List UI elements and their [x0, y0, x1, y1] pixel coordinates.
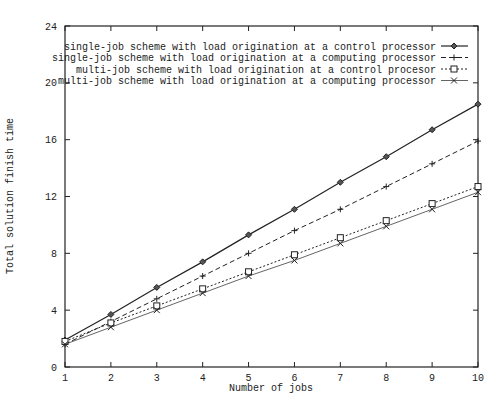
- cross-marker-icon: [337, 240, 343, 246]
- y-tick-label: 20: [45, 78, 57, 89]
- diamond-marker-icon: [337, 179, 343, 185]
- legend-label: multi-job scheme with load origination a…: [76, 65, 436, 76]
- cross-marker-icon: [429, 206, 435, 212]
- legend: single-job scheme with load origination …: [52, 42, 468, 88]
- diamond-marker-icon: [108, 311, 114, 317]
- plus-marker-icon: [383, 184, 389, 190]
- series-line: [65, 141, 478, 344]
- square-marker-icon: [475, 184, 481, 190]
- y-tick-label: 16: [45, 135, 57, 146]
- series-3: [62, 184, 481, 345]
- x-tick-label: 10: [472, 373, 484, 384]
- x-tick-label: 3: [154, 373, 160, 384]
- plus-marker-icon: [200, 273, 206, 279]
- diamond-marker-icon: [429, 127, 435, 133]
- series-line: [65, 187, 478, 342]
- x-tick-label: 7: [337, 373, 343, 384]
- plus-marker-icon: [475, 138, 481, 144]
- plus-marker-icon: [246, 250, 252, 256]
- legend-label: single-job scheme with load origination …: [52, 53, 436, 64]
- plus-marker-icon: [429, 161, 435, 167]
- series-2: [62, 138, 481, 347]
- series-line: [65, 192, 478, 344]
- x-tick-label: 4: [200, 373, 206, 384]
- legend-item: multi-job scheme with load origination a…: [58, 76, 468, 87]
- x-tick-label: 1: [62, 373, 68, 384]
- square-marker-icon: [451, 66, 457, 72]
- y-tick-label: 8: [51, 249, 57, 260]
- diamond-marker-icon: [200, 259, 206, 265]
- series-line: [65, 104, 478, 340]
- diamond-marker-icon: [246, 232, 252, 238]
- y-tick-label: 12: [45, 192, 57, 203]
- square-marker-icon: [337, 235, 343, 241]
- square-marker-icon: [383, 218, 389, 224]
- cross-marker-icon: [383, 223, 389, 229]
- plus-marker-icon: [337, 206, 343, 212]
- legend-label: multi-job scheme with load origination a…: [58, 76, 436, 87]
- y-tick-label: 24: [45, 22, 57, 33]
- legend-item: single-job scheme with load origination …: [64, 42, 468, 53]
- square-marker-icon: [291, 252, 297, 258]
- cross-marker-icon: [291, 257, 297, 263]
- diamond-marker-icon: [451, 43, 457, 49]
- line-chart: 04812162024 12345678910 single-job schem…: [0, 0, 504, 413]
- x-axis-label: Number of jobs: [229, 383, 313, 394]
- legend-item: single-job scheme with load origination …: [52, 53, 468, 64]
- diamond-marker-icon: [383, 154, 389, 160]
- y-tick-label: 4: [51, 306, 57, 317]
- legend-item: multi-job scheme with load origination a…: [76, 65, 468, 76]
- plus-marker-icon: [291, 228, 297, 234]
- legend-label: single-job scheme with load origination …: [64, 42, 436, 53]
- y-tick-label: 0: [51, 363, 57, 374]
- x-tick-label: 9: [429, 373, 435, 384]
- diamond-marker-icon: [154, 284, 160, 290]
- x-tick-label: 2: [108, 373, 114, 384]
- series-1: [62, 101, 481, 343]
- series-group: [62, 101, 481, 347]
- series-4: [62, 189, 481, 347]
- diamond-marker-icon: [291, 206, 297, 212]
- square-marker-icon: [429, 201, 435, 207]
- plus-marker-icon: [154, 296, 160, 302]
- y-axis-label: Total solution finish time: [5, 118, 16, 274]
- plus-marker-icon: [451, 55, 457, 61]
- diamond-marker-icon: [475, 101, 481, 107]
- x-tick-label: 8: [383, 373, 389, 384]
